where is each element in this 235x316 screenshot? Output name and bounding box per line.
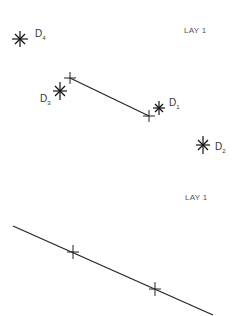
point-label-d3: D3 (40, 93, 51, 106)
projected-line (13, 226, 213, 315)
cross-marker-1 (67, 245, 79, 259)
cross-marker-2 (149, 282, 161, 296)
bottom-panel: LAY 1 (13, 193, 213, 315)
point-label-d2: D2 (215, 141, 226, 154)
point-d3: D3 (40, 82, 67, 106)
point-d2: D2 (196, 136, 226, 154)
top-panel: LAY 1 D1 (12, 26, 226, 154)
layer-label-bottom: LAY 1 (185, 193, 208, 202)
point-d1: D1 (153, 97, 180, 115)
point-d4: D4 (12, 28, 46, 47)
asterisk-marker-icon (53, 82, 67, 100)
point-label-d4: D4 (35, 28, 46, 41)
cross-marker-start (64, 72, 76, 84)
asterisk-marker-icon (12, 31, 28, 47)
point-label-d1: D1 (169, 97, 180, 110)
asterisk-marker-icon (196, 136, 210, 154)
diagram-canvas: LAY 1 D1 (0, 0, 235, 316)
segment-line (70, 78, 149, 116)
layer-label-top: LAY 1 (184, 26, 207, 35)
asterisk-marker-icon (153, 101, 165, 115)
cross-marker-end (143, 110, 155, 122)
